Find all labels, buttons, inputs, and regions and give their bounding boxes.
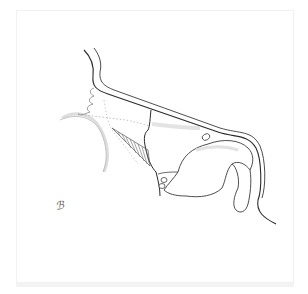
wavy-folds — [78, 88, 94, 115]
organ-hook-tail — [232, 164, 251, 212]
small-nodule-upper — [201, 132, 211, 141]
anatomical-illustration — [0, 0, 308, 294]
small-nodule-left-2 — [159, 184, 165, 189]
small-nodule-left-1 — [161, 178, 167, 183]
hatched-wedge — [112, 128, 150, 166]
connecting-band — [158, 172, 178, 174]
shaded-band — [152, 124, 200, 128]
dotted-tissue-line-2 — [104, 100, 138, 164]
rounded-mass-shading — [62, 114, 107, 172]
